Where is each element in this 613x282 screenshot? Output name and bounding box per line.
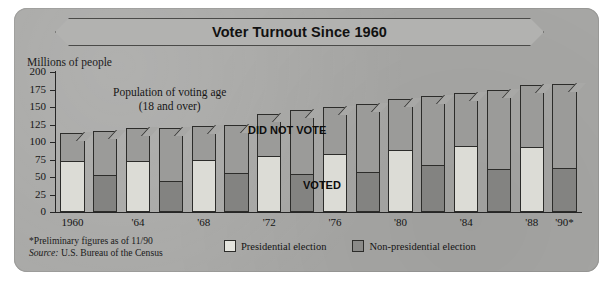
y-tick-mark [50,195,55,196]
bar-1984 [454,93,478,212]
population-note-line2: (18 and over) [113,99,226,113]
y-tick-mark [50,212,55,213]
bar-voted-segment [553,168,575,211]
y-axis-line [55,71,56,213]
x-tick-label: '90* [540,216,589,228]
bar-1986 [487,90,511,212]
legend-label-non-presidential: Non-presidential election [369,241,475,252]
bar-1970 [224,125,248,213]
x-axis-line [55,212,582,213]
bar-voted-segment [521,147,543,211]
bar-voted-segment [455,146,477,211]
y-tick-mark [50,107,55,108]
source-value: U.S. Bureau of the Census [58,247,162,258]
did-not-vote-label: DID NOT VOTE [248,124,326,136]
legend: Presidential election Non-presidential e… [224,240,476,252]
bar-1962 [93,131,117,212]
y-tick-label: 25 [20,189,46,200]
chart-screenshot: Voter Turnout Since 1960 Millions of peo… [0,0,613,282]
x-tick-label: '84 [442,216,491,228]
bar-voted-segment [357,172,379,211]
y-tick-label: 100 [20,136,46,147]
y-tick-mark [50,125,55,126]
bar-1964 [126,128,150,212]
population-note-line1: Population of voting age [113,85,226,99]
y-tick-label: 175 [20,84,46,95]
legend-item-presidential: Presidential election [224,240,326,252]
y-tick-mark [50,142,55,143]
bar-voted-segment [488,169,510,211]
legend-swatch-presidential [224,240,236,252]
bar-voted-segment [160,181,182,211]
bar-1960 [60,133,84,212]
bar-1988 [520,85,544,212]
bar-1976 [323,107,347,212]
x-tick-label: '68 [179,216,228,228]
x-tick-label: 1960 [48,216,97,228]
y-tick-label: 0 [20,206,46,217]
footnote-preliminary: *Preliminary figures as of 11/90 [29,235,163,247]
x-tick-label: '72 [245,216,294,228]
y-tick-mark [50,160,55,161]
bar-voted-segment [94,175,116,211]
y-tick-mark [50,177,55,178]
y-tick-label: 50 [20,171,46,182]
y-tick-label: 150 [20,101,46,112]
source-label: Source: [29,247,58,258]
x-tick-label: '80 [376,216,425,228]
x-tick-label: '76 [311,216,360,228]
bar-1980 [388,99,412,212]
bar-voted-segment [389,150,411,211]
y-tick-label: 200 [20,66,46,77]
legend-swatch-non-presidential [352,240,364,252]
legend-item-non-presidential: Non-presidential election [352,240,475,252]
x-tick-label: '64 [114,216,163,228]
bar-1978 [356,104,380,212]
bar-voted-segment [225,173,247,212]
population-note: Population of voting age (18 and over) [113,85,226,114]
y-tick-mark [50,72,55,73]
bar-1982 [421,96,445,212]
bar-voted-segment [422,165,444,211]
bar-1990 [552,84,576,212]
footnote-source: Source: U.S. Bureau of the Census [29,247,163,259]
voted-label: VOTED [303,179,341,191]
y-tick-label: 75 [20,154,46,165]
legend-label-presidential: Presidential election [241,241,326,252]
bar-voted-segment [127,161,149,211]
footnote: *Preliminary figures as of 11/90 Source:… [29,235,163,260]
bar-voted-segment [61,161,83,211]
bar-voted-segment [258,156,280,211]
bar-1966 [159,128,183,212]
y-tick-label: 125 [20,119,46,130]
bar-1968 [192,126,216,212]
bar-voted-segment [193,160,215,211]
y-tick-mark [50,90,55,91]
